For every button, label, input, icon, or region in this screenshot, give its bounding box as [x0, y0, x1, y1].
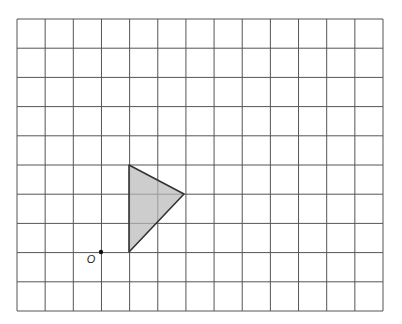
shaded-triangle	[129, 165, 184, 252]
origin-point	[99, 250, 103, 254]
origin-label: O	[87, 253, 96, 265]
grid-lines	[17, 19, 383, 311]
grid-diagram: O	[0, 0, 402, 324]
